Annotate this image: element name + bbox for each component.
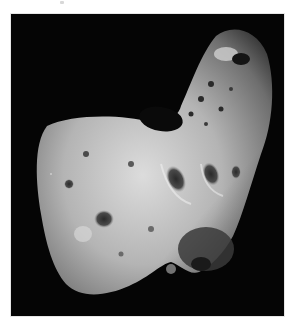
asteroid-image <box>11 14 284 316</box>
top-mark <box>60 1 64 4</box>
asteroid-photo <box>11 14 284 316</box>
